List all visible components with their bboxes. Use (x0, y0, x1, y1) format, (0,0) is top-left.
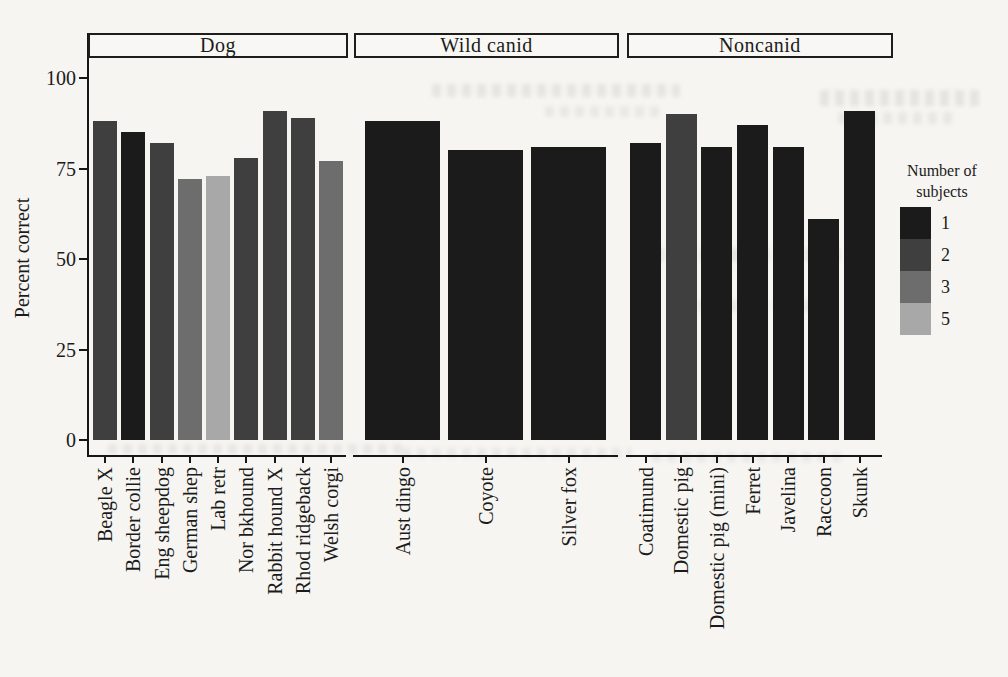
y-tick-label: 50 (28, 247, 76, 271)
x-tick-label-text: Border collie (123, 467, 143, 572)
bar-chart-figure: Percent correct Number of subjects 02550… (0, 0, 1008, 677)
legend-swatch (900, 303, 931, 335)
x-tick (161, 457, 163, 463)
y-tick (79, 168, 88, 170)
legend-title: Number of subjects (884, 161, 1000, 203)
bar (737, 125, 768, 440)
x-tick-label-text: Skunk (850, 467, 870, 518)
x-tick-label-text: Javelina (778, 467, 798, 533)
y-tick-label: 75 (28, 157, 76, 181)
x-tick-label-text: Silver fox (559, 467, 579, 546)
x-tick (330, 457, 332, 463)
bar (701, 147, 732, 440)
x-tick (402, 457, 404, 463)
x-tick-label-text: Coyote (476, 467, 496, 525)
x-tick-label-text: Aust dingo (393, 467, 413, 555)
x-tick (245, 457, 247, 463)
x-tick (132, 457, 134, 463)
y-tick (79, 258, 88, 260)
legend-label: 3 (941, 271, 971, 303)
x-tick-label-text: Ferret (743, 467, 763, 515)
scanned-page: Percent correct Number of subjects 02550… (0, 0, 1008, 677)
y-tick (79, 439, 88, 441)
x-tick (680, 457, 682, 463)
bar (234, 158, 258, 440)
x-tick (302, 457, 304, 463)
x-tick (104, 457, 106, 463)
bar (178, 179, 202, 440)
bar (531, 147, 606, 440)
x-tick (217, 457, 219, 463)
panel-header-wild-canid: Wild canid (354, 33, 619, 58)
x-tick (189, 457, 191, 463)
legend-swatch (900, 207, 931, 239)
x-tick-label-text: Rhod ridgeback (293, 467, 313, 594)
x-tick (485, 457, 487, 463)
x-tick-label-text: Beagle X (95, 467, 115, 542)
x-tick (823, 457, 825, 463)
y-tick-label: 25 (28, 338, 76, 362)
legend-label: 2 (941, 239, 971, 271)
x-tick (716, 457, 718, 463)
x-tick-label-text: Raccoon (814, 467, 834, 537)
legend-label: 5 (941, 303, 971, 335)
panel-header-noncanid: Noncanid (627, 33, 893, 58)
bar (263, 111, 287, 440)
y-axis-line (87, 33, 89, 457)
x-tick-label-text: Coatimund (636, 467, 656, 556)
x-tick-label-text: German shep (180, 467, 200, 573)
bar (808, 219, 839, 440)
x-tick (645, 457, 647, 463)
bar (291, 118, 315, 440)
y-tick (79, 77, 88, 79)
bar (93, 121, 117, 440)
x-tick (568, 457, 570, 463)
bar (319, 161, 343, 440)
x-tick-label-text: Welsh corgi (321, 467, 341, 562)
bar (121, 132, 145, 440)
bar (630, 143, 661, 440)
x-tick (752, 457, 754, 463)
panel-header-dog: Dog (88, 33, 348, 58)
x-tick-label-text: Rabbit hound X (265, 467, 285, 595)
x-tick (787, 457, 789, 463)
x-tick-label-text: Lab retr (208, 467, 228, 531)
legend-swatch (900, 271, 931, 303)
x-tick-label-text: Nor bkhound (236, 467, 256, 573)
x-axis-line (626, 455, 882, 457)
legend-label: 1 (941, 207, 971, 239)
bar (150, 143, 174, 440)
bar (448, 150, 523, 440)
y-tick-label: 100 (28, 66, 76, 90)
x-tick (859, 457, 861, 463)
bar (844, 111, 875, 440)
bar (365, 121, 440, 440)
bar (666, 114, 697, 440)
y-tick (79, 349, 88, 351)
bar (206, 176, 230, 440)
x-tick-label-text: Eng sheepdog (152, 467, 172, 580)
bar (773, 147, 804, 440)
legend-swatch (900, 239, 931, 271)
y-tick-label: 0 (28, 428, 76, 452)
x-tick-label-text: Domestic pig (mini) (707, 467, 727, 629)
x-tick-label-text: Domestic pig (671, 467, 691, 574)
x-tick (274, 457, 276, 463)
